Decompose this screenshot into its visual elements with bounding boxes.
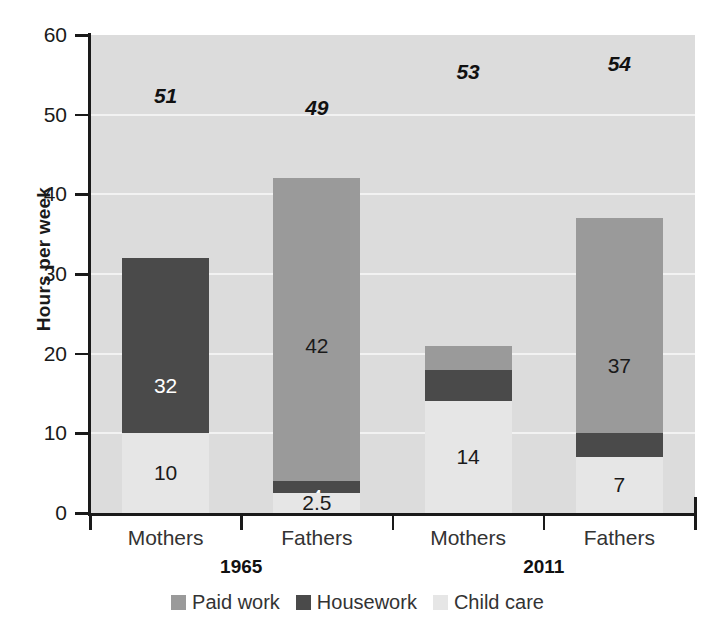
legend: Paid workHouseworkChild care	[0, 592, 715, 612]
legend-swatch-icon	[171, 595, 186, 610]
y-axis-tick-label: 0	[7, 502, 67, 523]
bar-segment-value-label: 37	[576, 355, 663, 376]
y-axis-tick-label: 40	[7, 183, 67, 204]
y-axis-tick	[75, 512, 89, 515]
legend-label: Child care	[454, 592, 544, 612]
bar-stack[interactable]: 211814	[425, 91, 512, 513]
x-axis-right-cap	[694, 497, 697, 515]
bar-stack[interactable]: 4242.5	[273, 127, 360, 513]
y-axis-tick	[75, 353, 89, 356]
y-axis-tick	[75, 114, 89, 117]
legend-swatch-icon	[296, 595, 311, 610]
x-axis-category-label: Mothers	[383, 527, 553, 549]
y-axis-tick-label: 60	[7, 24, 67, 45]
legend-item[interactable]: Housework	[296, 592, 417, 612]
bar-total-label: 51	[122, 85, 209, 106]
bar-stack[interactable]: 83210	[122, 115, 209, 513]
x-axis-era-label: 1965	[156, 557, 326, 577]
y-axis-tick-label: 10	[7, 422, 67, 443]
legend-item[interactable]: Child care	[433, 592, 544, 612]
y-axis-tick	[75, 34, 89, 37]
bar-segment-value-label: 10	[122, 462, 209, 483]
x-axis-category-label: Fathers	[232, 527, 402, 549]
y-axis-tick-label: 20	[7, 343, 67, 364]
y-axis-line	[88, 33, 91, 515]
x-axis-era-label: 2011	[459, 557, 629, 577]
bar-total-label: 49	[273, 97, 360, 118]
y-axis-tick-label: 30	[7, 263, 67, 284]
bar-segment-value-label: 42	[273, 335, 360, 356]
bar-total-label: 53	[425, 61, 512, 82]
x-axis-category-label: Fathers	[534, 527, 704, 549]
y-axis-tick	[75, 193, 89, 196]
y-axis-tick	[75, 432, 89, 435]
bar-segment-value-label: 2.5	[273, 492, 360, 513]
bar-stack[interactable]: 37107	[576, 83, 663, 513]
legend-label: Paid work	[192, 592, 280, 612]
y-axis-tick-label: 50	[7, 104, 67, 125]
bar-total-label: 54	[576, 53, 663, 74]
legend-label: Housework	[317, 592, 417, 612]
x-axis-category-label: Mothers	[81, 527, 251, 549]
bar-segment-value-label: 32	[122, 375, 209, 396]
legend-swatch-icon	[433, 595, 448, 610]
stacked-bar-chart: Hours per week 6050403020100 83210514242…	[0, 0, 715, 633]
bar-segment-value-label: 14	[425, 446, 512, 467]
legend-item[interactable]: Paid work	[171, 592, 280, 612]
y-axis-tick	[75, 273, 89, 276]
bar-segment-value-label: 7	[576, 474, 663, 495]
